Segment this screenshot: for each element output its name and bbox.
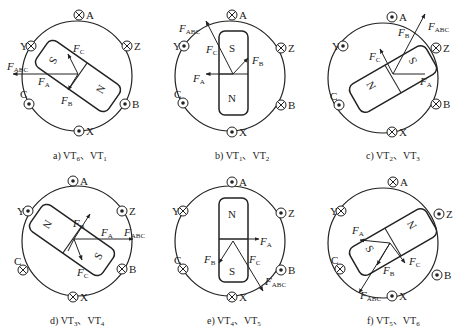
rotor [27,202,117,279]
label-fc: FC [248,253,261,267]
label-a: A [80,175,88,187]
coil-z-dot-icon [276,208,286,218]
label-fa: FA [259,235,272,249]
label-a: A [239,176,247,188]
label-c: C [20,88,27,100]
label-y: Y [17,205,25,217]
caption-c: c) VT2、VT3 [366,150,420,163]
caption-e: e) VT4、VT5 [207,315,261,328]
coil-x-dot-icon [74,126,84,136]
label-fc: FC [368,50,381,64]
panel-e: A Y Z C B X N S FA FB FC FABC e) VT4、VT5 [172,176,295,328]
coil-x-cross-icon [227,292,237,302]
coil-x-cross-icon [387,127,397,137]
coil-b-dot-icon [276,265,286,275]
rotor [347,206,439,278]
panel-c: A Y Z C B X S N FABC FB FC FA c) VT2、VT3 [328,11,450,163]
label-z: Z [443,42,450,54]
coil-z-cross-icon [276,43,286,53]
label-z: Z [134,40,141,52]
label-y: Y [332,40,340,52]
label-b: B [132,98,139,110]
label-fabc: FABC [359,289,381,303]
label-fb: FB [397,26,410,40]
label-x: X [239,126,247,138]
pole-s: S [229,42,235,54]
pole-n: N [40,218,54,231]
coil-x-dot-icon [227,127,237,137]
label-z: Z [129,205,136,217]
label-fa: FA [192,72,205,86]
label-fabc: FABC [264,275,286,289]
label-fa: FA [419,75,432,89]
label-c: C [14,255,21,267]
label-y: Y [172,205,180,217]
panel-f: A Y Z C B X N S FA FC FB FABC f) VT5、VT6 [328,176,453,328]
stator-circle [22,186,132,296]
panel-d: A Y Z C B X N S FB FA FABC FC d) VT3、VT4 [14,175,145,328]
label-fa: FA [37,75,50,89]
coil-b-cross-icon [431,99,441,109]
label-fb: FB [251,54,264,68]
label-fc: FC [205,43,218,57]
coil-b-cross-icon [117,264,127,274]
coil-z-cross-icon [122,41,132,51]
label-fb: FB [382,264,395,278]
label-a: A [86,9,94,21]
label-fb: FB [60,94,73,108]
coil-a-dot-icon [68,176,78,186]
pole-n: N [228,92,236,104]
caption-d: d) VT3、VT4 [50,315,105,328]
label-c: C [174,254,181,266]
label-y: Y [20,40,28,52]
label-fb: FB [203,253,216,267]
pole-n: N [228,208,236,220]
label-x: X [239,291,247,303]
coil-c-dot-icon [24,99,34,109]
label-fa: FA [100,226,113,240]
label-z: Z [288,42,295,54]
label-fabc: FABC [123,226,145,240]
panel-a: A Y Z C B X S N FC FABC FA FB a) VT6、VT1 [6,9,141,163]
pole-s: S [47,55,60,66]
label-b: B [288,99,295,111]
label-x: X [399,290,407,302]
caption-f: f) VT5、VT6 [367,315,420,328]
coil-b-dot-icon [120,99,130,109]
vector-fc [68,54,78,74]
label-z: Z [288,207,295,219]
label-a: A [399,11,407,23]
coil-x-cross-icon [68,292,78,302]
label-z: Z [446,208,453,220]
pole-n: N [404,219,418,232]
label-y: Y [330,205,338,217]
coil-z-cross-icon [431,43,441,53]
label-b: B [129,263,136,275]
label-b: B [444,269,451,281]
vector-fb [233,58,248,74]
label-fc: FC [408,255,421,269]
vector-fb [68,74,78,90]
vector-fb [219,241,233,263]
label-fa: FA [351,224,364,238]
label-c: C [331,254,338,266]
coil-a-cross-icon [227,10,237,20]
label-c: C [174,88,181,100]
vector-fc [74,239,82,260]
coil-b-dot-icon [432,270,442,280]
vector-fa [360,240,390,243]
pole-n: N [364,79,378,92]
label-fabc: FABC [6,60,28,74]
caption-a: a) VT6、VT1 [53,150,107,163]
coil-a-cross-icon [388,177,398,187]
vector-fc [390,243,405,263]
label-x: X [86,125,94,137]
coil-z-dot-icon [434,209,444,219]
pole-s: S [229,265,235,277]
label-x: X [80,291,88,303]
pole-s: S [91,250,104,261]
coil-a-cross-icon [74,10,84,20]
label-x: X [399,126,407,138]
label-y: Y [173,40,181,52]
label-fc: FC [72,42,85,56]
